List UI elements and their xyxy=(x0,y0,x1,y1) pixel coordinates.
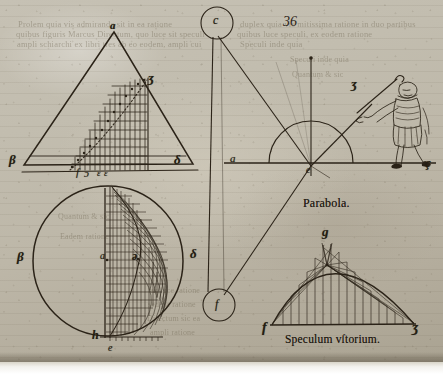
parabola-title: Parabola. xyxy=(303,196,350,211)
scanned-page: Prolem quia vis admiranda sit in ea rati… xyxy=(0,0,443,374)
label-parabola-f: f xyxy=(262,320,267,336)
label-circle-c: c xyxy=(213,13,218,28)
folio-number: 36 xyxy=(283,14,297,30)
label-triangle-f: f xyxy=(76,166,79,178)
label-triangle-h: ʒ xyxy=(148,70,154,86)
circle-f xyxy=(203,289,235,321)
label-triangle-epsilon-1: ε xyxy=(97,168,101,178)
label-triangle-delta: δ xyxy=(174,152,181,168)
label-circle-h: h xyxy=(92,328,99,343)
man-with-staff-figure xyxy=(356,76,431,169)
parabola-caption-speculum-ustorium: Speculum vſtorium. xyxy=(285,333,380,345)
label-circle-beta: β xyxy=(17,249,24,265)
lower-circle-diagram xyxy=(33,186,183,341)
diagram-line-art xyxy=(0,0,443,374)
label-triangle-o: ɔ xyxy=(84,167,89,179)
reflection-semicircle-diagram xyxy=(224,56,436,178)
label-parabola-g: g xyxy=(322,224,329,240)
label-triangle-epsilon-2: ε xyxy=(104,168,108,178)
label-semicircle-e: e xyxy=(306,164,310,175)
label-circle-schwa: ə xyxy=(132,249,137,264)
parabola-burning-mirror-diagram xyxy=(270,243,416,325)
label-semicircle-c: ç xyxy=(425,155,431,171)
upper-triangle-diagram xyxy=(22,32,198,172)
page-bottom-white-margin xyxy=(0,362,443,374)
label-triangle-apex-a: a xyxy=(110,19,116,31)
label-circle-a: a xyxy=(100,250,105,261)
label-semicircle-a: a xyxy=(230,152,236,164)
label-circle-delta: δ xyxy=(190,246,197,262)
label-triangle-beta: β xyxy=(9,152,16,168)
label-circle-f: f xyxy=(215,297,218,312)
ray-lines xyxy=(201,7,311,321)
label-parabola-three: ʒ xyxy=(412,320,419,336)
label-semicircle-h: ʒ xyxy=(351,76,357,92)
